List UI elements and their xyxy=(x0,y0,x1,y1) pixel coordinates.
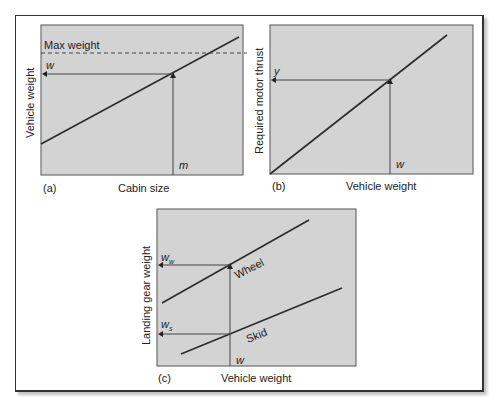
max-weight-label: Max weight xyxy=(44,39,100,51)
x-axis-label-a: Cabin size xyxy=(118,182,169,194)
panel-tag-c: (c) xyxy=(158,372,171,384)
panel-b: y w (b) Vehicle weight Required motor th… xyxy=(253,25,473,192)
panel-tag-b: (b) xyxy=(272,180,285,192)
w-marker: w xyxy=(396,158,405,170)
panel-tag-a: (a) xyxy=(43,182,56,194)
panel-c: ww ws Wheel Skid w (c) Vehicle weight La… xyxy=(140,209,356,384)
plot-area-c xyxy=(157,209,356,366)
y-axis-label-b: Required motor thrust xyxy=(253,48,265,154)
y-axis-label-c: Landing gear weight xyxy=(140,246,152,345)
m-marker: m xyxy=(179,159,188,171)
w-marker: w xyxy=(236,354,245,366)
figure-diagram: Max weight w m (a) Cabin size Vehicle we… xyxy=(0,0,499,406)
w-marker: w xyxy=(46,59,55,71)
plot-area-b xyxy=(270,25,473,174)
x-axis-label-c: Vehicle weight xyxy=(221,372,291,384)
panel-a: Max weight w m (a) Cabin size Vehicle we… xyxy=(24,25,247,194)
x-axis-label-b: Vehicle weight xyxy=(346,180,416,192)
y-axis-label-a: Vehicle weight xyxy=(24,68,36,138)
